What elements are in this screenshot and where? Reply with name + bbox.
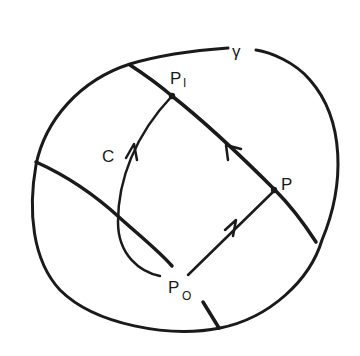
label-gamma: γ bbox=[232, 42, 241, 61]
leaf-segment-bottom bbox=[203, 302, 219, 328]
path-p0-to-p bbox=[188, 190, 275, 275]
leaf-line-upper bbox=[130, 65, 316, 242]
diagram-canvas: γ P I C P P O bbox=[0, 0, 360, 356]
label-c: C bbox=[102, 147, 114, 166]
label-p1: P bbox=[170, 69, 181, 88]
point-p bbox=[271, 187, 277, 193]
curve-c bbox=[118, 96, 172, 276]
leaf-line-lower bbox=[36, 162, 172, 266]
label-p0: P bbox=[168, 278, 179, 297]
label-p1-subscript: I bbox=[183, 76, 186, 90]
point-p1 bbox=[169, 93, 175, 99]
label-p0-subscript: O bbox=[182, 289, 191, 303]
label-p: P bbox=[281, 175, 292, 194]
